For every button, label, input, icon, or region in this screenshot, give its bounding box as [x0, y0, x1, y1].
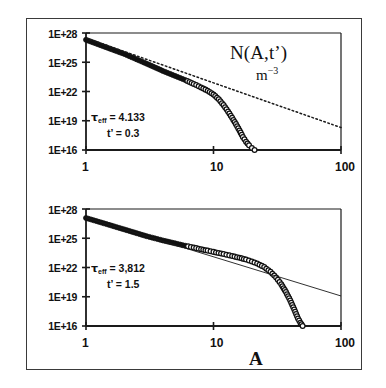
lower-y-tick-label-2: 1E+22	[25, 262, 77, 274]
chart-panel-upper: 1E+28 1E+25 1E+22 1E+19 1E+16 1 10 100 τ…	[27, 19, 363, 195]
tprime-value: 0.3	[125, 127, 140, 139]
lower-y-tick-label-4: 1E+16	[25, 320, 77, 332]
tau-symbol: τ	[91, 111, 98, 124]
quantity-label: N(A,t’)	[230, 42, 287, 64]
upper-tau-line: τeff = 4.133	[91, 111, 145, 123]
tau-value: = 3,812	[107, 262, 145, 274]
figure-container: 1E+28 1E+25 1E+22 1E+19 1E+16 1 10 100 τ…	[0, 0, 386, 388]
lower-y-tick-label-0: 1E+28	[25, 204, 77, 216]
lower-tau-line: τeff = 3,812	[91, 262, 145, 274]
upper-panel-plot-area	[27, 19, 363, 195]
tprime-label: t’	[107, 278, 113, 290]
lower-x-tick-label-2: 100	[335, 336, 355, 350]
chart-panel-lower: 1E+28 1E+25 1E+22 1E+19 1E+16 1 10 100 τ…	[27, 195, 363, 371]
upper-x-tick-label-1: 10	[210, 160, 223, 174]
tprime-label: t’	[107, 127, 113, 139]
tprime-value: 1.5	[125, 278, 140, 290]
upper-y-tick-label-0: 1E+28	[25, 28, 77, 40]
lower-y-tick-label-1: 1E+25	[25, 233, 77, 245]
upper-y-tick-label-2: 1E+22	[25, 86, 77, 98]
tau-value: = 4.133	[107, 111, 145, 123]
lower-x-tick-label-0: 1	[82, 336, 89, 350]
upper-y-tick-label-3: 1E+19	[25, 115, 77, 127]
upper-y-tick-label-1: 1E+25	[25, 57, 77, 69]
tau-symbol: τ	[91, 262, 98, 275]
tau-subscript: eff	[98, 268, 107, 275]
figure-outer-frame: 1E+28 1E+25 1E+22 1E+19 1E+16 1 10 100 τ…	[26, 18, 362, 370]
lower-panel-plot-area	[27, 195, 363, 371]
upper-x-tick-label-0: 1	[82, 160, 89, 174]
lower-y-tick-label-3: 1E+19	[25, 291, 77, 303]
x-axis-name-label: A	[249, 348, 263, 370]
upper-y-tick-label-4: 1E+16	[25, 144, 77, 156]
upper-panel-annotation: τeff = 4.133 t’ = 0.3	[91, 110, 145, 140]
upper-x-tick-label-2: 100	[335, 160, 355, 174]
tau-subscript: eff	[98, 117, 107, 124]
lower-tprime-line: t’ = 1.5	[91, 277, 139, 291]
lower-panel-annotation: τeff = 3,812 t’ = 1.5	[91, 261, 145, 291]
lower-x-tick-label-1: 10	[210, 336, 223, 350]
upper-tprime-line: t’ = 0.3	[91, 126, 139, 140]
units-label: m−3	[256, 65, 278, 84]
